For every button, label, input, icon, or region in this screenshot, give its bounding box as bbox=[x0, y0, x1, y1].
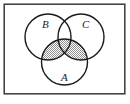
set-label-a: A bbox=[61, 72, 68, 83]
venn-diagram-canvas bbox=[0, 0, 130, 104]
set-label-c: C bbox=[82, 19, 89, 30]
set-label-b: B bbox=[42, 19, 49, 30]
venn-diagram-figure: B C A bbox=[0, 0, 130, 104]
